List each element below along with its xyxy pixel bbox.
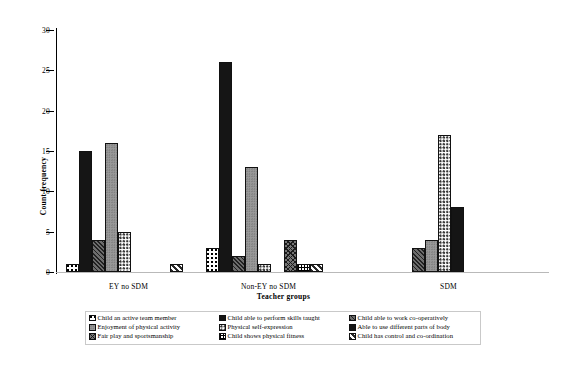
gray-swatch-icon [89,324,96,331]
bar [438,135,451,272]
legend-item: Child able to work co-operatively [349,314,477,322]
bar [232,256,245,272]
bar [310,264,323,272]
chart-legend: Child an active team memberChild able to… [85,311,481,345]
bar [92,240,105,272]
legend-item: Physical self-expression [219,323,347,331]
legend-item: Child shows physical fitness [219,332,347,340]
bar [451,207,464,272]
bar [79,151,92,272]
y-tick-label: 25 [42,66,50,75]
x-axis-line [56,272,549,273]
bar [66,264,79,272]
legend-item-label: Child an active team member [98,314,177,322]
y-tick-label: 20 [42,106,50,115]
checkerdot-swatch-icon [89,315,96,322]
legend-item: Child able to perform skills taught [219,314,347,322]
diaghatch-swatch-icon [349,315,356,322]
legend-item-label: Child shows physical fitness [228,332,305,340]
solidblack2-swatch-icon [349,324,356,331]
bar-group-bars [386,30,503,272]
y-tick-label: 5 [46,227,50,236]
bar-group-bars [66,30,183,272]
x-axis-title: Teacher groups [0,292,567,301]
x-group-label: Non-EY no SDM [206,282,331,291]
legend-item-label: Child has control and co-ordination [358,332,454,340]
y-tick-label: 30 [42,26,50,35]
legend-item: Fair play and sportsmanship [89,332,217,340]
legend-item-label: Fair play and sportsmanship [98,332,174,340]
grid-swatch-icon [219,333,226,340]
legend-item-label: Enjoyment of physical activity [98,323,181,331]
bar [219,62,232,272]
bar [170,264,183,272]
legend-item-label: Able to use different parts of body [358,323,450,331]
dots-swatch-icon [219,324,226,331]
legend-item: Enjoyment of physical activity [89,323,217,331]
bar [245,167,258,272]
legend-item-label: Child able to work co-operatively [358,314,449,322]
legend-item: Able to use different parts of body [349,323,477,331]
y-tick-label: 10 [42,187,50,196]
x-group-label: EY no SDM [66,282,191,291]
plot-area: 051015202530 EY no SDMNon-EY no SDMSDM [56,30,549,272]
bar-group: EY no SDM [66,30,191,272]
legend-item: Child an active team member [89,314,217,322]
bar-chart: Count frequency Teacher groups 051015202… [0,0,567,371]
bar [425,240,438,272]
legend-item-label: Physical self-expression [228,323,293,331]
solidblack-swatch-icon [219,315,226,322]
bar [118,232,131,272]
legend-item: Child has control and co-ordination [349,332,477,340]
y-tick-label: 15 [42,147,50,156]
bar [105,143,118,272]
bar [412,248,425,272]
bar-group: Non-EY no SDM [206,30,331,272]
bar [284,240,297,272]
bar-group: SDM [386,30,511,272]
crosshatch-swatch-icon [89,333,96,340]
diagstripe-swatch-icon [349,333,356,340]
y-tick-label: 0 [46,268,50,277]
legend-item-label: Child able to perform skills taught [228,314,320,322]
bar [258,264,271,272]
y-axis-title: Count frequency [39,156,48,214]
x-group-label: SDM [386,282,511,291]
bar-group-bars [206,30,323,272]
bar [297,264,310,272]
bar [206,248,219,272]
